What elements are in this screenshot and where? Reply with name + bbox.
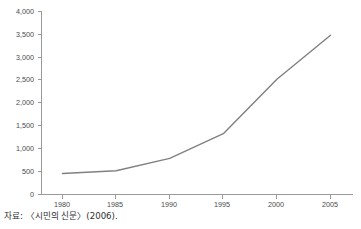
data-series-line	[63, 35, 331, 173]
y-tick-label-4000: 4,000	[16, 7, 34, 16]
y-axis-tick-labels: 4,000 3,500 3,000 2,500 2,000 1,500 1,00…	[16, 7, 34, 199]
x-tick-label-2000: 2000	[268, 200, 284, 209]
x-axis-tick-labels: 1980 1985 1990 1995 2000 2005	[54, 200, 338, 209]
x-tick-label-1980: 1980	[54, 200, 70, 209]
x-tick-label-1995: 1995	[214, 200, 230, 209]
y-tick-label-1000: 1,000	[16, 144, 34, 153]
chart-figure: 4,000 3,500 3,000 2,500 2,000 1,500 1,00…	[0, 0, 361, 229]
y-tick-label-2000: 2,000	[16, 98, 34, 107]
y-tick-label-0: 0	[30, 190, 34, 199]
source-note: 자료: 〈시민의 신문〉(2006).	[4, 210, 118, 222]
x-axis-ticks	[63, 195, 331, 199]
x-tick-label-1985: 1985	[107, 200, 123, 209]
y-tick-label-3500: 3,500	[16, 30, 34, 39]
y-tick-label-2500: 2,500	[16, 75, 34, 84]
y-axis-ticks	[38, 12, 42, 195]
y-tick-label-1500: 1,500	[16, 121, 34, 130]
x-tick-label-1990: 1990	[161, 200, 177, 209]
y-tick-label-500: 500	[22, 167, 34, 176]
line-chart-plot: 4,000 3,500 3,000 2,500 2,000 1,500 1,00…	[0, 0, 361, 229]
y-tick-label-3000: 3,000	[16, 53, 34, 62]
x-tick-label-2005: 2005	[322, 200, 338, 209]
